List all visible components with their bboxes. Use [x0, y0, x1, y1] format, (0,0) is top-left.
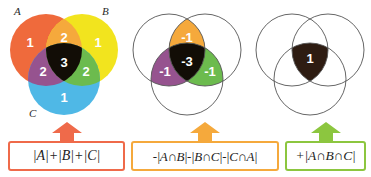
count-b-and-c: -1	[204, 64, 216, 79]
set-label-b: B	[102, 6, 109, 17]
arrow-up-icon	[310, 122, 342, 142]
count-a-and-b-and-c: -3	[181, 54, 193, 69]
count-a-and-b-and-c: 1	[306, 51, 313, 66]
count-a-and-c: 2	[39, 64, 46, 79]
formula-text-subtract-pairs: -|A∩B|-|B∩C|-|C∩A|	[153, 150, 258, 163]
formula-group-sum: |A|+|B|+|C|	[8, 123, 125, 171]
venn-panel-subtract-pairs: -1 -1 -1 -3	[125, 0, 249, 126]
set-label-a: A	[14, 6, 21, 17]
set-label-c: C	[29, 108, 37, 119]
arrow-up-icon	[189, 122, 221, 142]
count-a-and-b: -1	[181, 30, 193, 45]
count-b-and-c: 2	[82, 64, 89, 79]
formula-group-subtract-pairs: -|A∩B|-|B∩C|-|C∩A|	[131, 123, 279, 171]
count-a-and-c: -1	[159, 64, 171, 79]
count-a-and-b-and-c: 3	[60, 55, 67, 70]
venn-panel-sum-of-sets: 1 1 1 2 2 2 3 A B C	[2, 0, 126, 126]
count-a-and-b: 2	[60, 30, 67, 45]
formula-box-subtract-pairs: -|A∩B|-|B∩C|-|C∩A|	[131, 141, 279, 171]
count-a-only: 1	[26, 35, 33, 50]
arrow-up-icon	[51, 122, 83, 142]
venn-diagram-1: 1 1 1 2 2 2 3	[2, 0, 126, 126]
count-c-only: 1	[60, 90, 67, 105]
formula-box-add-triple: +|A∩B∩C|	[285, 141, 366, 171]
formula-box-sum: |A|+|B|+|C|	[8, 141, 125, 171]
formula-text-add-triple: +|A∩B∩C|	[296, 149, 356, 163]
venn-panel-add-triple: 1	[248, 0, 371, 126]
venn-diagram-3: 1	[248, 0, 371, 126]
inclusion-exclusion-figure: 1 1 1 2 2 2 3 A B C	[0, 0, 371, 177]
venn-diagram-2: -1 -1 -1 -3	[125, 0, 249, 126]
count-b-only: 1	[94, 35, 101, 50]
formula-group-add-triple: +|A∩B∩C|	[285, 123, 366, 171]
formula-text-sum: |A|+|B|+|C|	[33, 149, 100, 163]
